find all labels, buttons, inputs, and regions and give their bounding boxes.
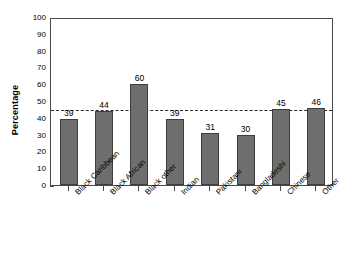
plot-area: 3944603931304546	[50, 18, 333, 186]
y-axis-tick-labels: 0102030405060708090100	[22, 18, 46, 186]
bar-slot: 39	[51, 19, 86, 185]
bar-value-label: 30	[241, 125, 250, 134]
y-axis-tick-label: 10	[22, 165, 46, 173]
bar-value-label: 39	[64, 109, 73, 118]
y-axis-tick-label: 0	[22, 182, 46, 190]
bar-slot: 39	[157, 19, 192, 185]
bar-value-label: 45	[276, 99, 285, 108]
y-axis-tick-label: 50	[22, 98, 46, 106]
y-axis-tick-label: 90	[22, 31, 46, 39]
bar-value-label: 60	[135, 74, 144, 83]
bar[interactable]	[201, 133, 219, 185]
bar-value-label: 31	[205, 123, 214, 132]
bar-value-label: 44	[99, 101, 108, 110]
y-axis-tick-label: 40	[22, 115, 46, 123]
bars-layer: 3944603931304546	[51, 19, 332, 185]
bar-slot: 46	[299, 19, 334, 185]
y-axis-tick-label: 80	[22, 48, 46, 56]
y-axis-title: Percentage	[8, 60, 22, 160]
bar[interactable]	[60, 119, 78, 185]
bar-chart: Percentage 0102030405060708090100 394460…	[0, 0, 343, 274]
y-axis-tick-label: 70	[22, 64, 46, 72]
y-axis-tick-label: 100	[22, 14, 46, 22]
bar-slot: 30	[228, 19, 263, 185]
y-axis-title-text: Percentage	[10, 85, 20, 136]
y-axis-tick-label: 60	[22, 81, 46, 89]
bar-value-label: 39	[170, 109, 179, 118]
y-axis-tick-label: 20	[22, 148, 46, 156]
x-axis-category-labels: Black CaribbeanBlack AfricanBlack otherI…	[50, 191, 333, 271]
bar-slot: 31	[193, 19, 228, 185]
y-axis-tick-label: 30	[22, 132, 46, 140]
bar-value-label: 46	[312, 98, 321, 107]
